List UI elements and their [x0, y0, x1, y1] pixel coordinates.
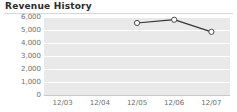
- grid-band: [44, 69, 230, 82]
- gridline: [44, 17, 230, 18]
- gridline: [44, 69, 230, 70]
- y-axis-tick-labels: 01,0002,0003,0004,0005,0006,000: [0, 14, 41, 104]
- y-tick-label: 6,000: [1, 14, 41, 21]
- x-tick-label: 12/03: [53, 99, 73, 107]
- grid-band: [44, 56, 230, 69]
- gridline: [44, 82, 230, 83]
- page-title: Revenue History: [5, 1, 92, 12]
- grid-band: [44, 43, 230, 56]
- y-tick-label: 3,000: [1, 53, 41, 60]
- y-tick-label: 4,000: [1, 40, 41, 47]
- x-tick-label: 12/06: [164, 99, 184, 107]
- x-tick-label: 12/07: [201, 99, 221, 107]
- x-tick-label: 12/04: [90, 99, 110, 107]
- x-axis-baseline: [44, 95, 230, 96]
- grid-band: [44, 30, 230, 43]
- y-tick-label: 5,000: [1, 27, 41, 34]
- x-tick-label: 12/05: [127, 99, 147, 107]
- revenue-history-panel: Revenue History 01,0002,0003,0004,0005,0…: [0, 0, 237, 112]
- y-tick-label: 2,000: [1, 66, 41, 73]
- grid-band: [44, 82, 230, 95]
- revenue-line-chart: 01,0002,0003,0004,0005,0006,000 12/0312/…: [0, 14, 237, 112]
- grid-band: [44, 17, 230, 30]
- y-tick-label: 0: [1, 92, 41, 99]
- x-axis-tick-labels: 12/0312/0412/0512/0612/07: [0, 99, 237, 111]
- gridline: [44, 43, 230, 44]
- plot-area: [44, 17, 230, 95]
- gridline: [44, 30, 230, 31]
- gridline: [44, 56, 230, 57]
- y-tick-label: 1,000: [1, 79, 41, 86]
